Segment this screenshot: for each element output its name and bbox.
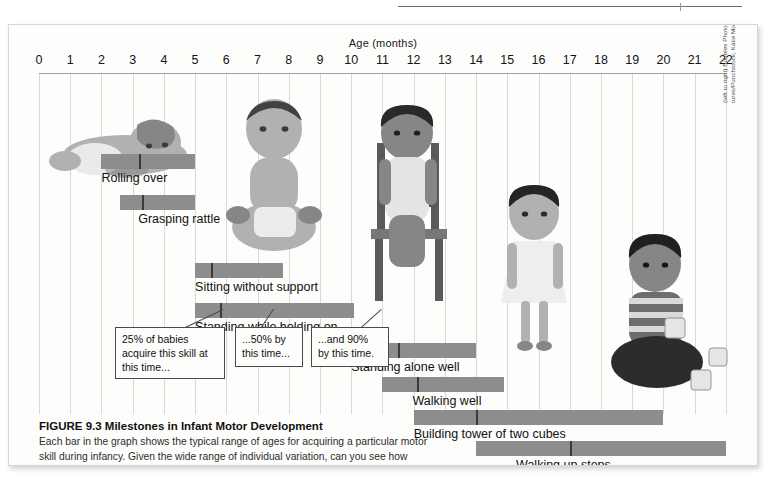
axis-tick-11: 11 [376, 53, 389, 67]
bar-label-rolling-over: Rolling over [101, 171, 167, 185]
axis-tick-3: 3 [129, 53, 136, 67]
bar-median-marker [142, 195, 144, 210]
bar-walking-well [382, 377, 504, 392]
figure-card: Age (months) 012345678910111213141516171… [8, 24, 758, 466]
bar-building-tower-of-two-cubes [414, 410, 664, 425]
baby-rolling-over [37, 103, 207, 181]
axis-tick-19: 19 [625, 53, 639, 67]
axis-tick-20: 20 [656, 53, 670, 67]
baby-standing-at-chair [349, 103, 469, 308]
bar-median-marker [398, 343, 400, 358]
bar-median-marker [417, 377, 419, 392]
axis-tick-14: 14 [469, 53, 483, 67]
axis-tick-18: 18 [594, 53, 608, 67]
bar-label-walking-well: Walking well [412, 394, 481, 408]
axis-tick-2: 2 [98, 53, 105, 67]
axis-tick-10: 10 [344, 53, 358, 67]
bar-median-marker [211, 263, 213, 278]
callout-p90: ...and 90% by this time. [311, 327, 389, 367]
photo-credit: (left to right) Bubbles Photolibrary/Ala… [721, 24, 729, 103]
figure-plot-area: Age (months) 012345678910111213141516171… [9, 25, 757, 465]
bar-label-grasping-rattle: Grasping rattle [138, 212, 220, 226]
callout-p50: ...50% by this time... [235, 327, 303, 367]
axis-tick-0: 0 [36, 53, 43, 67]
axis-title: Age (months) [9, 37, 757, 49]
photo-credit-line-1: (left to right) Bubbles Photolibrary/Ala… [721, 24, 728, 103]
figure-title: Milestones in Infant Motor Development [105, 420, 323, 432]
axis-tick-17: 17 [563, 53, 577, 67]
bar-label-sitting-without-support: Sitting without support [195, 280, 318, 294]
axis-tick-16: 16 [532, 53, 546, 67]
bar-label-walking-up-steps: Walking up steps [516, 458, 611, 466]
photo-credit-line-2: tures/Punchstock; Katie Moss/Jupiterimag… [729, 24, 737, 103]
axis-tick-12: 12 [407, 53, 421, 67]
axis-tick-8: 8 [285, 53, 292, 67]
bar-rolling-over [101, 154, 195, 169]
caption-title: FIGURE 9.3 Milestones in Infant Motor De… [39, 420, 439, 432]
page-top-rule-tick [680, 3, 681, 11]
axis-tick-6: 6 [223, 53, 230, 67]
bar-median-marker [570, 441, 572, 456]
callout-leader-p90 [361, 309, 382, 328]
axis-tick-7: 7 [254, 53, 261, 67]
axis-tick-5: 5 [192, 53, 199, 67]
page-top-rule [398, 6, 742, 7]
bar-grasping-rattle [120, 195, 195, 210]
axis-tick-15: 15 [500, 53, 514, 67]
figure-caption: FIGURE 9.3 Milestones in Infant Motor De… [39, 420, 439, 466]
bar-sitting-without-support [195, 263, 282, 278]
bar-median-marker [476, 410, 478, 425]
axis-tick-4: 4 [160, 53, 167, 67]
toddler-standing [489, 183, 579, 358]
axis-tick-21: 21 [688, 53, 702, 67]
axis-tick-13: 13 [438, 53, 452, 67]
axis-tick-9: 9 [316, 53, 323, 67]
callout-p25: 25% of babies acquire this skill at this… [115, 327, 225, 379]
gridline-14 [476, 74, 477, 414]
baby-sitting [224, 95, 324, 260]
toddler-with-blocks [599, 230, 729, 405]
bar-walking-up-steps [476, 441, 726, 456]
axis-tick-1: 1 [67, 53, 74, 67]
textbook-page: Age (months) 012345678910111213141516171… [0, 0, 766, 488]
figure-number: FIGURE 9.3 [39, 420, 102, 432]
caption-body: Each bar in the graph shows the typical … [39, 435, 439, 466]
bar-median-marker [139, 154, 141, 169]
